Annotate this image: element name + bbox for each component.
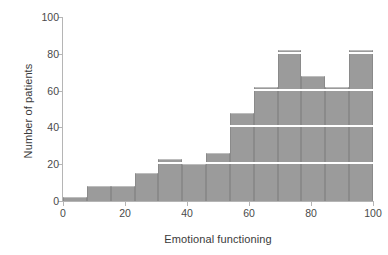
x-tick-mark [187, 201, 188, 206]
plot-area: 020406080100 020406080100 [63, 17, 373, 201]
x-tick-mark [311, 201, 312, 206]
x-tick-label: 40 [181, 208, 193, 219]
x-tick-label: 20 [119, 208, 131, 219]
x-tick-mark [63, 201, 64, 206]
histogram-bar [182, 164, 206, 201]
y-axis-title: Number of patients [22, 31, 34, 191]
y-tick-label: 60 [47, 85, 59, 96]
histogram-chart: Number of patients 020406080100 02040608… [0, 0, 388, 255]
x-tick-mark [373, 201, 374, 206]
x-tick-label: 60 [243, 208, 255, 219]
gridline [63, 52, 373, 54]
y-tick-label: 20 [47, 159, 59, 170]
histogram-bar [63, 197, 87, 201]
histogram-bar [206, 153, 230, 201]
x-tick-mark [125, 201, 126, 206]
x-axis-title: Emotional functioning [63, 233, 373, 245]
histogram-bar [254, 87, 278, 201]
x-tick-label: 100 [364, 208, 382, 219]
gridline [63, 89, 373, 91]
y-tick-label: 100 [41, 12, 59, 23]
y-tick-label: 0 [53, 196, 59, 207]
histogram-bar [87, 186, 111, 201]
histogram-bar [135, 173, 159, 201]
gridline [63, 125, 373, 127]
y-tick-label: 40 [47, 122, 59, 133]
histogram-bar [111, 186, 135, 201]
gridline [63, 162, 373, 164]
x-tick-label: 0 [60, 208, 66, 219]
x-tick-mark [249, 201, 250, 206]
x-axis-line [62, 201, 374, 202]
y-tick-label: 80 [47, 49, 59, 60]
histogram-bar [301, 76, 325, 201]
x-tick-label: 80 [305, 208, 317, 219]
histogram-bar [158, 159, 182, 201]
histogram-bar [325, 87, 349, 201]
